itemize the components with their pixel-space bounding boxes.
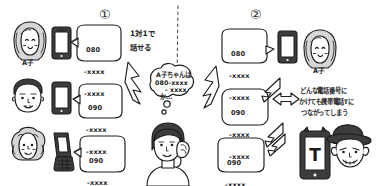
phone-number-left-3-prefix: 090 [89, 158, 108, 165]
phone-number-left-2-prefix: 090 [88, 105, 107, 112]
avatar-girl-a-ko-right [304, 30, 336, 68]
avatar-girl-a-ko-left [14, 22, 46, 60]
caption-one-to-one-line1: 1対1で [130, 30, 155, 38]
arrow-double-horizontal [273, 93, 299, 105]
signal-rays-left [125, 62, 141, 104]
svg-text:T: T [309, 145, 321, 165]
caption-one-to-one-line2: 話せる [130, 44, 152, 52]
phone-number-right-bottom-mid: -xxxx [225, 182, 246, 186]
person-on-phone-center [147, 123, 189, 186]
phone-number-left-2-mid: -xxxx [86, 127, 107, 134]
phone-number-right-top-mid: -xxxx [229, 73, 250, 80]
smartphone-icon-right-top [278, 31, 297, 63]
step-number-1-label: ① [99, 8, 111, 23]
note-line-3: つながってしまう [301, 109, 347, 116]
thought-line-2: 080-xxxx [155, 79, 188, 86]
avatar-hat-man [327, 125, 371, 167]
phone-number-right-bottom: 090 -xxxx -xxxx [226, 145, 246, 186]
phone-number-left-3-mid: -xxxx [87, 180, 108, 186]
phone-number-left-1-mid: -xxxx [84, 69, 105, 76]
phone-number-right-bottom-prefix: 090 [227, 160, 246, 167]
thought-line-1: A子ちゃんは [156, 71, 191, 78]
step-number-2-label: ② [250, 8, 262, 23]
phone-number-left-1-prefix: 080 [86, 47, 105, 54]
illustration-canvas: .ink{fill:none;stroke:#1c1c1c;stroke-wid… [0, 0, 380, 186]
caller-name-a-ko-right: A子 [313, 68, 325, 75]
phone-number-right-middle-mid: -xxxx [229, 132, 250, 139]
note-line-2: かけても携帯電話Tに [299, 98, 353, 105]
signal-rays-right [203, 66, 219, 108]
avatar-man-left [13, 79, 44, 112]
thought-line-3: - xxxx [165, 86, 187, 93]
smartphone-icon-left-2 [52, 82, 71, 114]
phone-number-right-top-prefix: 080 [231, 51, 250, 58]
phone-number-right-middle-prefix: 090 [231, 110, 250, 117]
flip-phone-icon-left [54, 133, 74, 171]
note-line-1: どんな電話番号に [300, 87, 346, 94]
smartphone-icon-left-1 [52, 27, 71, 59]
devil-phone-icon: T [300, 127, 330, 179]
thought-line-4: か… [160, 93, 173, 100]
avatar-curly-left [12, 127, 45, 160]
caller-name-a-ko-left: A子 [22, 60, 34, 67]
phone-number-left-3: 090 -xxxx -xxxx [88, 143, 108, 186]
